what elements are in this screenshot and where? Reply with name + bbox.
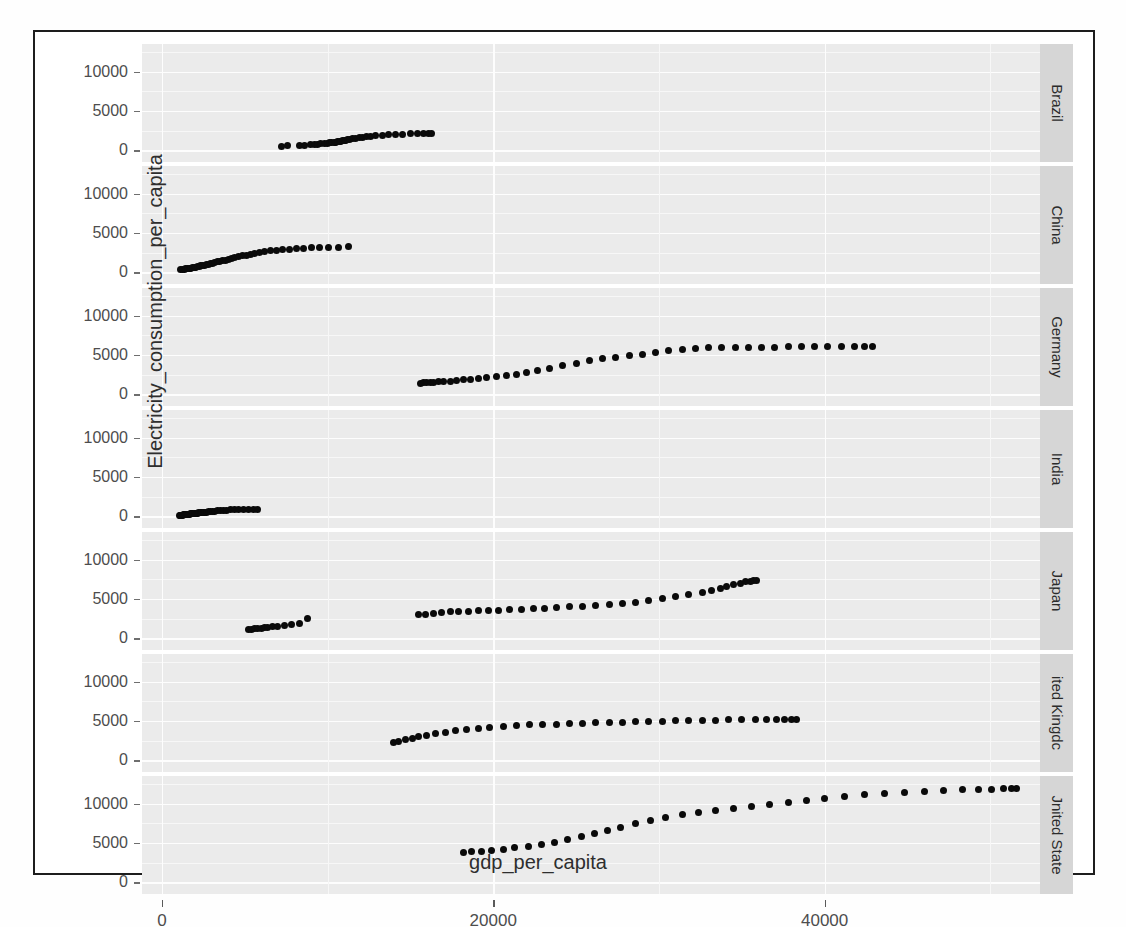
facet-panel-japan [142,532,1040,650]
facet-strip: Brazil [1040,44,1073,162]
facet-row: ited Kingdc [142,654,1040,772]
data-point [402,736,409,743]
data-point [632,820,639,827]
data-point [679,346,686,353]
gridline-horizontal-minor [142,213,1040,214]
data-point [785,343,792,350]
data-point [591,830,598,837]
y-axis-tick-mark [134,721,140,723]
data-point [730,581,737,588]
facet-row: Jnited State [142,776,1040,894]
data-point [452,727,459,734]
x-axis-tick-label: 0 [117,912,207,927]
gridline-horizontal-major [142,150,1040,152]
gridline-horizontal-major [142,760,1040,762]
data-point [695,809,702,816]
data-point [513,371,520,378]
gridline-vertical-major [493,288,495,406]
y-axis-tick-label: 5000 [58,713,128,729]
gridline-horizontal-major [142,194,1040,196]
data-point [732,344,739,351]
data-point [566,720,573,727]
data-point [440,378,447,385]
y-axis-tick-label: 0 [58,142,128,158]
data-point [712,717,719,724]
data-point [758,344,765,351]
y-axis-tick-mark [134,682,140,684]
data-point [606,719,613,726]
data-point [662,814,669,821]
y-axis-label: Electricity_consumption_per_capita [144,147,167,477]
data-point [538,841,545,848]
gridline-vertical-minor [659,410,660,528]
y-axis-tick-mark [134,272,140,274]
data-point [592,719,599,726]
data-point [617,824,624,831]
gridline-horizontal-minor [142,619,1040,620]
facet-strip-label: Japan [1048,571,1065,612]
data-point [526,721,533,728]
y-axis-tick-mark [134,882,140,884]
gridline-horizontal-minor [142,457,1040,458]
data-point [901,789,908,796]
data-point [566,603,573,610]
y-axis-tick-mark [134,638,140,640]
data-point [432,730,439,737]
data-point [553,604,560,611]
data-point [639,351,646,358]
gridline-vertical-minor [328,532,329,650]
gridline-vertical-major [493,410,495,528]
y-axis-tick-mark [134,760,140,762]
y-axis-tick-label: 0 [58,752,128,768]
data-point [793,716,800,723]
gridline-vertical-minor [990,410,991,528]
y-axis-tick-label: 10000 [58,552,128,568]
data-point [861,343,868,350]
data-point [308,244,315,251]
gridline-vertical-minor [990,44,991,162]
gridline-horizontal-minor [142,540,1040,541]
gridline-vertical-major [493,532,495,650]
x-axis-tick-mark [162,900,164,907]
data-point [518,606,525,613]
data-point [612,354,619,361]
data-point [672,717,679,724]
facet-row: Japan [142,532,1040,650]
facet-row: Germany [142,288,1040,406]
data-point [475,375,482,382]
gridline-horizontal-minor [142,418,1040,419]
y-axis-tick-label: 10000 [58,674,128,690]
data-point [604,827,611,834]
gridline-vertical-major [825,776,827,894]
gridline-horizontal-minor [142,131,1040,132]
data-point [573,360,580,367]
data-point [281,622,288,629]
data-point [345,243,352,250]
x-axis-label: gdp_per_capita [33,851,1043,874]
gridline-horizontal-minor [142,784,1040,785]
gridline-vertical-minor [328,654,329,772]
gridline-horizontal-major [142,438,1040,440]
data-point [699,717,706,724]
gridline-horizontal-major [142,516,1040,518]
data-point [325,244,332,251]
data-point [513,722,520,729]
gridline-vertical-major [825,532,827,650]
gridline-horizontal-minor [142,296,1040,297]
data-point [415,733,422,740]
x-axis-tick-label: 20000 [448,912,538,927]
y-axis-tick-label: 10000 [58,64,128,80]
gridline-horizontal-major [142,843,1040,845]
gridline-horizontal-major [142,804,1040,806]
y-axis-tick-label: 0 [58,264,128,280]
facet-panel-china [142,166,1040,284]
x-axis-tick-label: 40000 [780,912,870,927]
data-point [659,595,666,602]
gridline-horizontal-major [142,477,1040,479]
y-axis-tick-mark [134,111,140,113]
gridline-horizontal-major [142,233,1040,235]
gridline-vertical-minor [328,410,329,528]
data-point [551,839,558,846]
data-point [284,142,291,149]
data-point [672,593,679,600]
